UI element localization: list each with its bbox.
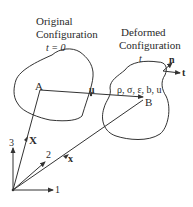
original-title-line1: Original (36, 15, 73, 27)
displacement-label: u (89, 84, 95, 95)
point-A-label: A (35, 80, 43, 92)
configuration-diagram: Original Configuration t = 0 Deformed Co… (0, 0, 193, 207)
deformed-title-line1: Deformed (121, 26, 166, 38)
normal-label: n (169, 54, 175, 65)
X-arrowhead (24, 136, 28, 142)
traction-label: t (182, 67, 186, 78)
axis-1-label: 1 (55, 184, 60, 195)
original-title-line2: Configuration (36, 28, 98, 40)
axis-2-label: 2 (46, 149, 51, 160)
field-variables-label: ρ, σ, ε, b, u (117, 84, 162, 95)
origin (12, 189, 15, 192)
original-body-outline (14, 49, 93, 121)
original-time-label: t = 0 (46, 42, 66, 53)
deformed-time-label: t (139, 53, 142, 64)
current-position-label: x (68, 153, 73, 164)
point-B-label: B (145, 96, 152, 108)
reference-position-label: X (29, 134, 37, 146)
axis-3-label: 3 (9, 137, 14, 148)
deformed-title-line2: Configuration (119, 39, 181, 51)
axis-2 (13, 162, 45, 190)
deformed-body-outline (103, 61, 169, 139)
